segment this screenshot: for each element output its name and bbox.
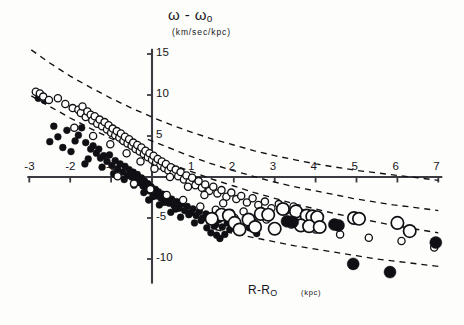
data-point	[206, 213, 218, 225]
y-tick-label: 10	[156, 87, 169, 99]
data-point	[130, 180, 137, 187]
x-tick-label: 3	[270, 160, 276, 172]
x-tick-label: 7	[433, 160, 439, 172]
data-point	[191, 220, 198, 227]
data-point	[166, 173, 173, 180]
y-tick-label: 15	[156, 46, 169, 58]
data-point	[391, 217, 403, 229]
data-point	[249, 221, 261, 233]
data-point	[62, 100, 69, 107]
data-point	[163, 191, 170, 198]
x-tick-label: 4	[311, 160, 317, 172]
data-point	[167, 209, 174, 216]
data-point	[140, 189, 147, 196]
data-point	[151, 165, 158, 172]
y-tick-label: -10	[156, 251, 173, 263]
data-point	[314, 221, 326, 233]
data-point	[95, 146, 102, 153]
data-point	[46, 138, 53, 145]
data-point	[59, 144, 66, 151]
data-point	[71, 124, 78, 131]
data-point	[107, 141, 114, 148]
data-point	[137, 158, 144, 165]
data-point	[347, 258, 359, 270]
data-point	[180, 196, 187, 203]
data-point	[99, 164, 106, 171]
data-point	[145, 197, 152, 204]
data-point	[365, 234, 372, 241]
data-point	[177, 214, 184, 221]
x-tick-label: 1	[188, 160, 194, 172]
data-point	[262, 209, 274, 221]
data-point	[121, 176, 128, 183]
data-point	[269, 223, 281, 235]
x-tick-label: 2	[229, 160, 235, 172]
data-point	[184, 183, 191, 190]
data-point	[198, 217, 205, 224]
data-point	[114, 173, 121, 180]
data-point	[220, 200, 227, 207]
data-point	[337, 231, 344, 238]
x-tick-label: 6	[392, 160, 398, 172]
data-point	[384, 266, 396, 278]
x-tick-label: -3	[24, 160, 34, 172]
data-point	[261, 198, 268, 205]
data-point	[123, 150, 130, 157]
data-point	[55, 133, 62, 140]
data-point	[82, 161, 89, 168]
data-point	[238, 192, 245, 199]
data-point	[201, 191, 208, 198]
data-point	[68, 148, 75, 155]
y-axis-units: (km/sec/kpc)	[172, 27, 231, 37]
y-axis-label: ω - ωo	[168, 6, 213, 24]
x-axis-label: R-RO	[248, 283, 278, 298]
data-point	[430, 237, 442, 249]
y-tick-label: 5	[156, 128, 162, 140]
y-tick-label: -5	[156, 210, 166, 222]
data-point	[156, 202, 163, 209]
data-point	[404, 225, 416, 237]
data-point	[147, 186, 154, 193]
data-point	[353, 213, 365, 225]
data-point	[75, 132, 82, 139]
x-tick-label: 5	[352, 160, 358, 172]
data-point	[90, 132, 97, 139]
data-point	[45, 96, 52, 103]
data-point	[333, 219, 345, 231]
data-point	[78, 124, 85, 131]
data-point	[287, 216, 299, 228]
data-point	[106, 152, 113, 159]
data-point	[190, 206, 197, 213]
x-tick-label: -1	[106, 160, 116, 172]
data-point	[277, 203, 289, 215]
x-axis-units: (kpc)	[301, 288, 321, 297]
data-point	[210, 183, 217, 190]
data-point	[50, 123, 57, 130]
data-point	[64, 127, 71, 134]
x-tick-label: -2	[65, 160, 75, 172]
data-point	[197, 203, 204, 210]
data-point	[54, 95, 61, 102]
data-point	[185, 211, 192, 218]
data-point	[249, 195, 256, 202]
data-point	[228, 189, 235, 196]
data-point	[82, 139, 89, 146]
data-point	[221, 231, 228, 238]
data-point	[233, 223, 245, 235]
data-point	[398, 237, 405, 244]
data-point	[202, 181, 209, 188]
figure-scatter-plot: ω - ωo (km/sec/kpc) R-RO (kpc) -3-2-1123…	[0, 0, 464, 325]
data-point	[218, 187, 225, 194]
